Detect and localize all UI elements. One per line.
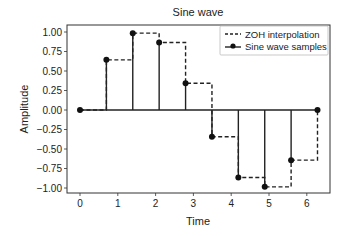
chart-title: Sine wave — [173, 6, 224, 18]
stem-marker — [288, 157, 294, 163]
x-tick-label: 5 — [266, 198, 272, 209]
y-axis-label: Amplitude — [18, 85, 30, 134]
stem-marker — [103, 57, 109, 63]
x-axis-label: Time — [186, 215, 210, 227]
x-tick-label: 4 — [228, 198, 234, 209]
y-axis: 1.000.750.500.250.00−0.25−0.50−0.75−1.00 — [37, 27, 67, 194]
x-axis: 0123456 — [77, 193, 310, 209]
legend-samples-label: Sine wave samples — [245, 41, 327, 52]
y-tick-label: 1.00 — [43, 27, 63, 38]
legend: ZOH interpolation Sine wave samples — [220, 26, 328, 55]
stem-marker — [130, 30, 136, 36]
y-tick-label: 0.00 — [43, 105, 63, 116]
stem-marker — [209, 134, 215, 140]
x-tick-label: 6 — [304, 198, 310, 209]
y-tick-label: 0.25 — [43, 85, 63, 96]
x-tick-label: 0 — [77, 198, 83, 209]
stem-marker — [314, 107, 320, 113]
stem-marker — [262, 184, 268, 190]
x-tick-label: 1 — [115, 198, 121, 209]
stem-marker — [183, 80, 189, 86]
stem-marker — [156, 39, 162, 45]
y-tick-label: −1.00 — [37, 183, 63, 194]
y-tick-label: 0.75 — [43, 46, 63, 57]
x-tick-label: 2 — [153, 198, 159, 209]
legend-samples-marker — [230, 43, 235, 48]
chart: Sine wave 0123456 1.000.750.500.250.00−0… — [0, 0, 347, 236]
x-tick-label: 3 — [191, 198, 197, 209]
y-tick-label: −0.25 — [37, 124, 63, 135]
y-tick-label: −0.50 — [37, 144, 63, 155]
y-tick-label: −0.75 — [37, 163, 63, 174]
legend-zoh-label: ZOH interpolation — [245, 29, 319, 40]
stem-marker — [77, 107, 83, 113]
y-tick-label: 0.50 — [43, 66, 63, 77]
stem-marker — [235, 175, 241, 181]
